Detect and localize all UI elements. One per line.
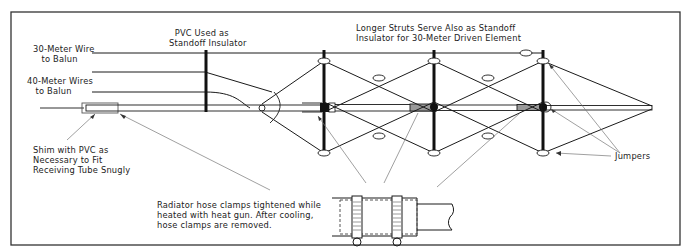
- boom: [40, 103, 652, 113]
- frame-border: [11, 12, 680, 245]
- label-radiator-clamps: Radiator hose clamps tightened while hea…: [157, 200, 321, 230]
- label-shim: Shim with PVC as Necessary to Fit Receiv…: [33, 145, 130, 175]
- label-pvc-standoff: PVC Used as Standoff Insulator: [169, 28, 247, 48]
- label-30m-wire: 30-Meter Wire to Balun: [33, 44, 94, 64]
- leader-lines: [67, 64, 620, 190]
- antenna-diagram: [0, 0, 692, 252]
- label-longer-struts: Longer Struts Serve Also as Standoff Ins…: [356, 23, 521, 43]
- hose-clamp-detail: [332, 196, 454, 246]
- label-40m-wires: 40-Meter Wires to Balun: [27, 76, 93, 96]
- label-jumpers: Jumpers: [615, 151, 650, 161]
- struts: [206, 50, 543, 155]
